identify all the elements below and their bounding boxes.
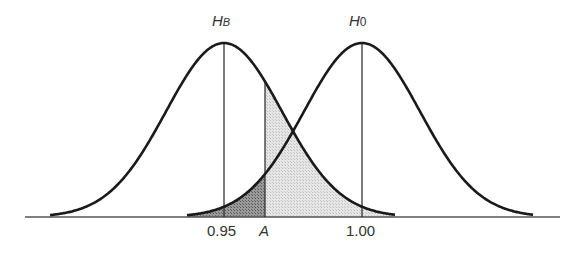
tick-label-095: 0.95: [207, 222, 236, 239]
hb-curve: [50, 43, 395, 215]
h0-curve: [187, 43, 533, 215]
h0-label: H0: [349, 12, 367, 29]
tick-label-100: 1.00: [346, 222, 375, 239]
alpha-region: [187, 174, 265, 217]
tick-label-a: A: [259, 222, 269, 239]
diagram-canvas: [0, 0, 588, 253]
beta-region: [265, 81, 395, 217]
hb-label: HB: [212, 12, 230, 29]
